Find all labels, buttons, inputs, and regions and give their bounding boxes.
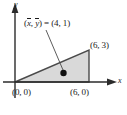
- x-axis-arrowhead-icon: [107, 79, 117, 86]
- x-axis-label: x: [118, 77, 121, 85]
- centroid-label-value: ) = (4, 1): [39, 18, 70, 28]
- triangle-region: [15, 50, 89, 82]
- centroid-label: (x, y) = (4, 1): [24, 19, 70, 28]
- y-axis-label: y: [14, 1, 17, 9]
- vertex-label-base: (6, 0): [70, 88, 89, 97]
- centroid-triangle-figure: (x, y) = (4, 1) (6, 3) (0, 0) (6, 0) y x: [0, 0, 127, 115]
- vertex-label-top: (6, 3): [90, 41, 109, 50]
- centroid-dot-marker: [60, 70, 66, 76]
- centroid-leader-line: [46, 30, 63, 70]
- vertex-label-origin: (0, 0): [12, 88, 31, 97]
